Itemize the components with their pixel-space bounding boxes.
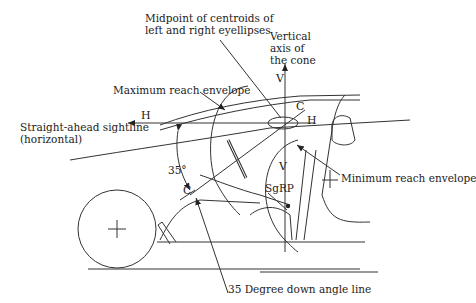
headrest	[332, 116, 355, 145]
c-symbol-bottom: C	[183, 184, 191, 197]
angle-arc	[177, 131, 190, 190]
vertical-axis-label-line1: Vertical	[270, 30, 311, 42]
max-reach-label: Maximum reach envelope	[113, 84, 251, 96]
v-symbol-top: V	[276, 72, 284, 85]
min-reach-label: Minimum reach envelope	[341, 172, 476, 184]
sgrp-label: SgRP	[265, 182, 294, 194]
c-symbol-top: C	[296, 100, 304, 113]
minimum-reach-arc	[266, 140, 298, 252]
midpoint-label-line2: left and right eyellipses	[145, 24, 271, 36]
angle-label: 35°	[168, 164, 187, 176]
vertical-axis-label-line3: the cone	[270, 54, 316, 66]
seatback-outline	[322, 95, 370, 222]
sightline-label-line2: (horizontal)	[20, 133, 82, 145]
v-symbol-bottom: V	[279, 160, 287, 173]
sightline-label-line1: Straight-ahead sightline	[20, 121, 149, 133]
sgrp-point	[286, 204, 290, 208]
h-symbol-right: H	[307, 114, 317, 127]
midpoint-label-line1: Midpoint of centroids of	[145, 12, 274, 24]
h-symbol-left: H	[141, 109, 151, 122]
down-angle-leader	[196, 198, 228, 293]
down-angle-label: 35 Degree down angle line	[228, 283, 371, 295]
vertical-axis-label-line2: axis of	[270, 42, 304, 54]
